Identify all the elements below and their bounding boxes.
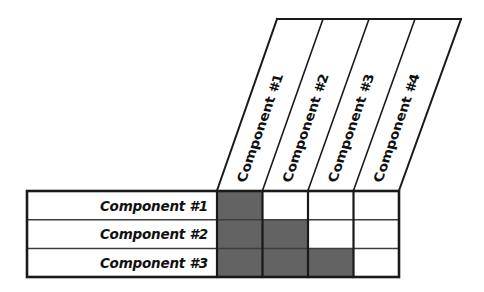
matrix-cell-r3c1[interactable] <box>217 248 263 277</box>
matrix-body: Component #1 Component #2 Component #3 <box>27 191 399 277</box>
matrix-cell-r2c1[interactable] <box>217 220 263 249</box>
matrix-cell-r2c3[interactable] <box>308 220 354 249</box>
matrix-cell-r3c2[interactable] <box>263 248 309 277</box>
row-header-label-2: Component #2 <box>100 226 208 242</box>
matrix-canvas: Component #1 Component #2 Component #3 <box>0 0 484 292</box>
matrix-cell-r1c2[interactable] <box>263 191 309 220</box>
matrix-cell-r3c3[interactable] <box>308 248 354 277</box>
matrix-cell-r2c2[interactable] <box>263 220 309 249</box>
matrix-cell-r1c1[interactable] <box>217 191 263 220</box>
matrix-cell-r3c4[interactable] <box>354 248 400 277</box>
row-header-label-1: Component #1 <box>100 198 208 214</box>
row-header-label-3: Component #3 <box>100 255 208 271</box>
column-header-band: Component #1 Component #2 Component #3 <box>217 19 461 191</box>
dependency-matrix-diagram: Component #1 Component #2 Component #3 <box>0 0 484 292</box>
matrix-cell-r2c4[interactable] <box>354 220 400 249</box>
matrix-cell-r1c3[interactable] <box>308 191 354 220</box>
matrix-cell-r1c4[interactable] <box>354 191 400 220</box>
